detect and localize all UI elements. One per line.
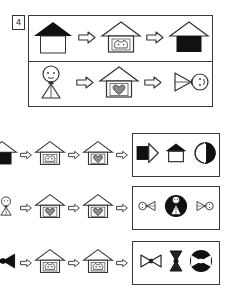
example-row-1 (29, 16, 212, 61)
question-1-sequence (0, 139, 132, 171)
house-with-heart-icon (82, 192, 114, 224)
arrow-right-outline-icon (146, 30, 164, 48)
house-with-heart-icon (98, 64, 140, 104)
stick-person-icon (0, 192, 18, 224)
house-with-heart-icon (34, 192, 66, 224)
house-with-cat-face-icon (82, 247, 114, 279)
stick-person-rotated-icon (138, 196, 161, 220)
stick-person-rotated-icon (191, 196, 214, 220)
arrow-right-outline-icon (144, 75, 162, 93)
house-outline-black-roof-icon (163, 140, 189, 170)
house-with-cat-face-icon (34, 247, 66, 279)
question-2-sequence (0, 192, 132, 224)
question-row-2 (0, 183, 230, 233)
house-black-body-icon (0, 139, 18, 171)
house-black-body-icon (168, 19, 210, 59)
arrow-right-outline-icon (20, 199, 32, 217)
arrow-right-outline-icon (116, 254, 128, 272)
circle-with-person-icon (163, 193, 189, 223)
question-3-answer-box[interactable] (132, 241, 220, 285)
arrow-right-outline-icon (116, 146, 128, 164)
circle-with-bowtie-icon (188, 248, 214, 278)
circle-half-filled-icon (192, 140, 218, 170)
question-row-1 (0, 130, 230, 180)
bowtie-icon (138, 251, 164, 275)
example-block (28, 15, 213, 107)
stick-person-icon (30, 63, 72, 105)
house-rotated-black-icon (134, 140, 160, 170)
bowtie-icon (0, 250, 18, 276)
house-black-roof-icon (32, 19, 74, 59)
example-row-2 (29, 61, 212, 106)
house-with-cat-face-icon (100, 19, 142, 59)
arrow-right-outline-icon (68, 199, 80, 217)
arrow-right-outline-icon (78, 30, 96, 48)
arrow-right-outline-icon (116, 199, 128, 217)
question-2-answer-box[interactable] (132, 186, 220, 230)
arrow-right-outline-icon (20, 146, 32, 164)
arrow-right-outline-icon (76, 75, 94, 93)
arrow-right-outline-icon (68, 146, 80, 164)
bowtie-vertical-icon (166, 248, 186, 278)
house-with-cat-face-icon (34, 139, 66, 171)
arrow-right-outline-icon (20, 254, 32, 272)
question-row-3 (0, 238, 230, 288)
stick-person-rotated-icon (166, 65, 212, 103)
house-with-heart-icon (82, 139, 114, 171)
item-number-badge: 4 (12, 15, 25, 30)
question-3-sequence (0, 247, 132, 279)
question-1-answer-box[interactable] (132, 133, 220, 177)
arrow-right-outline-icon (68, 254, 80, 272)
puzzle-page: 4 (0, 0, 230, 298)
